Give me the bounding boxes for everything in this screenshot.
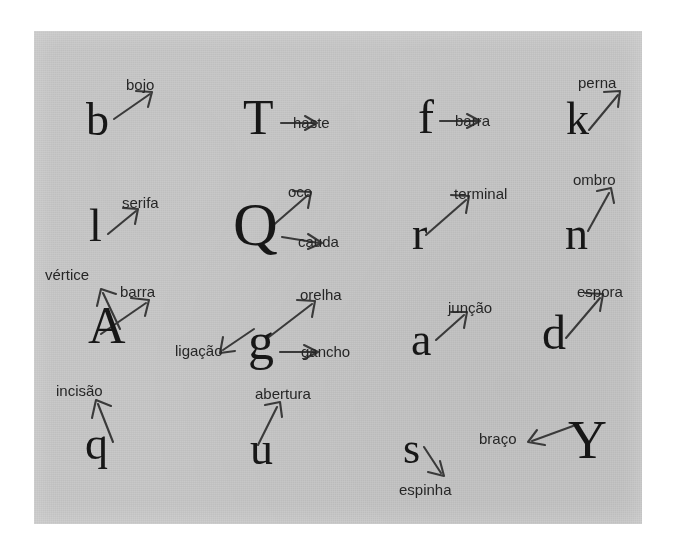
arrow-ombro: [583, 183, 623, 235]
glyph-a: a: [411, 317, 431, 363]
glyph-q: q: [85, 421, 108, 467]
glyph-f: f: [418, 93, 434, 141]
label-barra-f: barra: [455, 113, 490, 128]
glyph-Q: Q: [233, 193, 278, 255]
glyph-T: T: [243, 92, 274, 142]
figure-canvas: b bojo T haste f barra: [0, 0, 673, 554]
arrow-espinha: [419, 441, 453, 481]
label-haste: haste: [293, 115, 330, 130]
label-juncao: junção: [448, 300, 492, 315]
label-braco: braço: [479, 431, 517, 446]
label-oco: oco: [288, 184, 312, 199]
arrow-perna: [584, 86, 628, 134]
label-terminal: terminal: [454, 186, 507, 201]
glyph-k: k: [566, 96, 589, 142]
glyph-u: u: [250, 426, 273, 472]
glyph-s: s: [403, 427, 420, 471]
typographic-anatomy-plate: b bojo T haste f barra: [34, 31, 642, 524]
label-orelha: orelha: [300, 287, 342, 302]
label-perna: perna: [578, 75, 616, 90]
glyph-n: n: [565, 211, 588, 257]
glyph-l: l: [89, 203, 102, 249]
glyph-r: r: [412, 211, 427, 257]
label-abertura: abertura: [255, 386, 311, 401]
label-barra-a: barra: [120, 284, 155, 299]
glyph-g: g: [248, 316, 274, 368]
label-espora: espora: [577, 284, 623, 299]
glyph-b: b: [86, 97, 109, 143]
label-incisao: incisão: [56, 383, 103, 398]
label-cauda: cauda: [298, 234, 339, 249]
glyph-Y: Y: [568, 413, 607, 467]
label-gancho: gancho: [301, 344, 350, 359]
label-ombro: ombro: [573, 172, 616, 187]
glyph-A: A: [88, 300, 126, 352]
label-bojo: bojo: [126, 77, 154, 92]
label-vertice: vértice: [45, 267, 89, 282]
label-espinha: espinha: [399, 482, 452, 497]
label-serifa: serifa: [122, 195, 159, 210]
label-ligacao: ligação: [175, 343, 223, 358]
glyph-d: d: [542, 309, 566, 357]
